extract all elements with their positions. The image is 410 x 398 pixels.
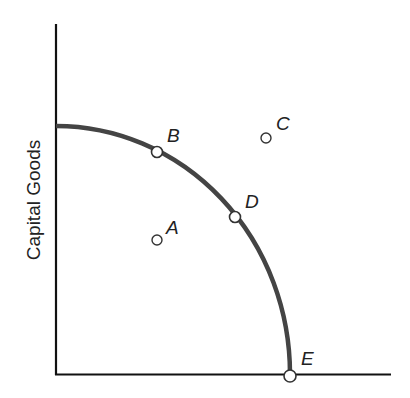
point-c-label: C <box>276 114 290 134</box>
point-b <box>152 147 163 158</box>
point-a-label: A <box>166 218 179 238</box>
point-c <box>261 133 271 143</box>
point-e <box>284 370 296 382</box>
point-d-label: D <box>245 192 259 212</box>
point-a <box>152 235 162 245</box>
point-b-label: B <box>167 126 180 146</box>
point-e-label: E <box>301 349 314 369</box>
ppf-curve <box>56 126 290 374</box>
point-d <box>230 212 241 223</box>
ppf-chart <box>0 0 410 398</box>
y-axis-label: Capital Goods <box>22 120 46 280</box>
